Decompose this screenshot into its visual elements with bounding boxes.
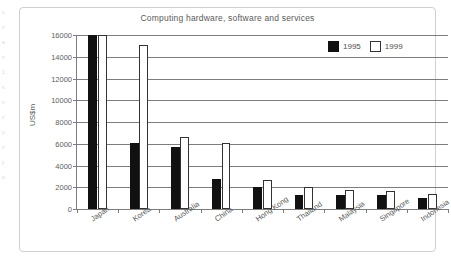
- y-tick-label: 10000: [51, 96, 72, 105]
- chart-figure-frame: Computing hardware, software and service…: [19, 7, 436, 252]
- scan-mark: n: [2, 55, 5, 60]
- bar-singapore-1995: [377, 195, 386, 209]
- x-tick-mark: [407, 209, 408, 213]
- y-tick-label: 4000: [55, 161, 72, 170]
- scan-mark: v: [2, 25, 5, 30]
- y-tick-label: 2000: [55, 183, 72, 192]
- scan-mark: y: [2, 130, 5, 135]
- bar-indonesia-1995: [418, 198, 427, 209]
- y-tick-label: 12000: [51, 74, 72, 83]
- bars-layer: [77, 35, 448, 209]
- scan-mark: y: [2, 160, 5, 165]
- plot-inner: 0200040006000800010000120001400016000 Ja…: [77, 35, 448, 209]
- bar-japan-1999: [98, 35, 107, 209]
- y-tick-label: 0: [68, 205, 72, 214]
- bar-korea-1995: [130, 143, 139, 209]
- y-tick-label: 6000: [55, 139, 72, 148]
- bar-china-1995: [212, 179, 221, 209]
- bar-hong-kong-1995: [253, 187, 262, 209]
- bar-malaysia-1995: [336, 195, 345, 209]
- plot-area: 0200040006000800010000120001400016000 Ja…: [77, 35, 448, 209]
- bar-australia-1999: [180, 137, 189, 209]
- scan-mark: c: [2, 10, 5, 15]
- scan-mark: v: [2, 145, 5, 150]
- scan-mark: n: [2, 100, 5, 105]
- x-tick-mark: [448, 209, 449, 213]
- chart-title: Computing hardware, software and service…: [20, 13, 435, 23]
- bar-australia-1995: [171, 147, 180, 209]
- y-tick-label: 14000: [51, 52, 72, 61]
- scan-mark: s: [2, 85, 5, 90]
- bar-japan-1995: [88, 35, 97, 209]
- bar-thailand-1995: [295, 195, 304, 209]
- y-tick-label: 8000: [55, 118, 72, 127]
- scan-mark: c: [2, 115, 5, 120]
- y-axis-title: US$m: [28, 104, 37, 126]
- bar-korea-1999: [139, 45, 148, 209]
- scan-mark: o: [2, 175, 5, 180]
- x-tick-mark: [77, 209, 78, 213]
- y-tick-label: 16000: [51, 31, 72, 40]
- x-tick-mark: [242, 209, 243, 213]
- scan-mark: 1: [2, 70, 5, 75]
- scan-margin-artifacts: cvan1sncyvyo: [0, 0, 14, 260]
- x-tick-mark: [201, 209, 202, 213]
- scan-mark: a: [2, 40, 5, 45]
- x-tick-mark: [118, 209, 119, 213]
- x-tick-mark: [283, 209, 284, 213]
- bar-china-1999: [222, 143, 231, 209]
- x-tick-mark: [366, 209, 367, 213]
- x-tick-mark: [159, 209, 160, 213]
- x-tick-mark: [324, 209, 325, 213]
